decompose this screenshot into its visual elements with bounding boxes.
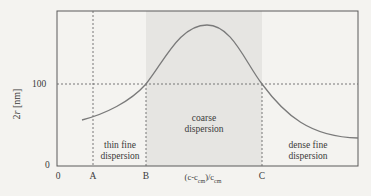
y-axis-label: 2r [nm] xyxy=(11,89,22,120)
region-label-thin-fine: thin fine dispersion xyxy=(100,140,139,162)
y-tick-100: 100 xyxy=(32,79,46,90)
region-thin-line2: dispersion xyxy=(100,151,139,162)
x-tick-0: 0 xyxy=(56,171,61,182)
region-label-coarse: coarse dispersion xyxy=(184,113,223,135)
region-dense-line1: dense fine xyxy=(288,140,327,151)
x-tick-B: B xyxy=(143,171,149,182)
y-tick-0: 0 xyxy=(45,160,50,171)
coarse-region-shade xyxy=(146,11,262,166)
x-axis-label: (c-ccm)/ccm xyxy=(185,172,222,184)
x-tick-A: A xyxy=(90,171,97,182)
region-thin-line1: thin fine xyxy=(100,140,139,151)
chart-plot-area xyxy=(0,0,371,196)
region-label-dense-fine: dense fine dispersion xyxy=(288,140,327,162)
region-coarse-line2: dispersion xyxy=(184,124,223,135)
region-dense-line2: dispersion xyxy=(288,151,327,162)
x-tick-C: C xyxy=(259,171,265,182)
region-coarse-line1: coarse xyxy=(184,113,223,124)
